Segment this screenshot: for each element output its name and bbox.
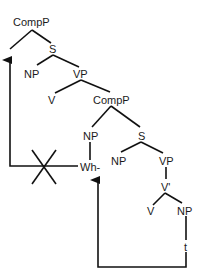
node-compp-top: CompP <box>13 16 50 28</box>
node-wh: Wh- <box>80 161 101 173</box>
blocked-movement-arrow <box>10 60 78 166</box>
node-v-bar: V' <box>161 181 170 193</box>
node-v-top: V <box>48 94 56 106</box>
node-vp-embedded: VP <box>159 155 174 167</box>
node-np-spec: NP <box>83 130 98 142</box>
node-v-embedded: V <box>147 205 155 217</box>
node-trace: t <box>184 241 187 253</box>
node-s-top: S <box>49 43 56 55</box>
node-vp-top: VP <box>73 68 88 80</box>
node-np-embedded-subject: NP <box>111 155 126 167</box>
node-np-object: NP <box>177 205 192 217</box>
node-compp-embedded: CompP <box>93 94 130 106</box>
node-np-subject: NP <box>24 68 39 80</box>
node-s-embedded: S <box>138 130 145 142</box>
tree-nodes: CompP S NP VP V CompP NP S Wh- NP VP V' … <box>13 16 192 253</box>
trace-to-wh-arrow <box>98 180 186 267</box>
blocked-x-icon <box>32 150 56 184</box>
syntax-tree-diagram: CompP S NP VP V CompP NP S Wh- NP VP V' … <box>0 0 197 279</box>
